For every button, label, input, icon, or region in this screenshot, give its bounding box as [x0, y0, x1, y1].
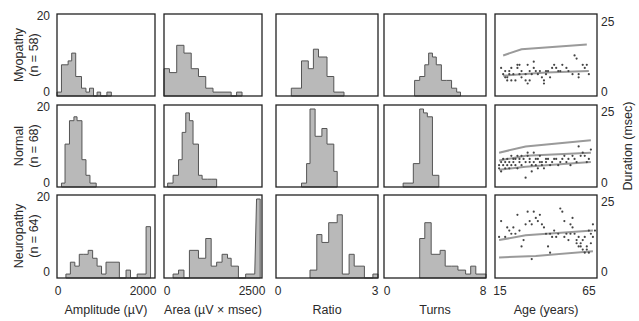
data-point — [584, 155, 586, 157]
row2-right-ytick-bottom: 0 — [601, 176, 608, 190]
panel-normal-turns — [384, 105, 486, 187]
data-point — [578, 236, 580, 238]
data-point — [537, 167, 539, 169]
data-point — [578, 76, 580, 78]
col4-xtick-min: 0 — [384, 284, 391, 298]
data-point — [520, 155, 522, 157]
panel-neuropathy-ratio — [276, 195, 378, 278]
row-label-myopathy: Myopathy — [12, 27, 26, 82]
data-point — [561, 158, 563, 160]
data-point — [539, 161, 541, 163]
data-point — [533, 211, 535, 213]
data-point — [498, 236, 500, 238]
data-point — [502, 158, 504, 160]
data-point — [571, 155, 573, 157]
data-point — [553, 158, 555, 160]
data-point — [504, 236, 506, 238]
data-point — [537, 158, 539, 160]
data-point — [520, 164, 522, 166]
data-point — [571, 73, 573, 75]
row3-ytick-bottom: 0 — [43, 265, 50, 279]
data-point — [543, 82, 545, 84]
data-point — [500, 67, 502, 69]
data-point — [514, 158, 516, 160]
data-point — [506, 76, 508, 78]
data-point — [522, 239, 524, 241]
col3-xtick-min: 0 — [275, 284, 282, 298]
data-point — [547, 70, 549, 72]
data-point — [573, 54, 575, 56]
data-point — [533, 67, 535, 69]
data-point — [535, 70, 537, 72]
histogram-bars — [61, 117, 96, 187]
data-point — [584, 67, 586, 69]
data-point — [594, 230, 596, 232]
data-point — [569, 223, 571, 225]
trend-line — [503, 45, 587, 56]
col1-xlabel: Amplitude (µV) — [65, 303, 148, 317]
data-point — [571, 217, 573, 219]
data-point — [561, 64, 563, 66]
data-point — [535, 164, 537, 166]
data-point — [578, 245, 580, 247]
data-point — [502, 164, 504, 166]
panel-grid — [57, 14, 597, 278]
data-point — [559, 70, 561, 72]
data-point — [498, 164, 500, 166]
data-point — [531, 164, 533, 166]
panel-myopathy-duration-age — [495, 14, 597, 96]
col3-xlabel: Ratio — [312, 303, 341, 317]
data-point — [518, 161, 520, 163]
data-point — [557, 164, 559, 166]
panel-neuropathy-amplitude — [57, 195, 155, 278]
data-point — [590, 242, 592, 244]
data-point — [533, 161, 535, 163]
panel-frame — [495, 105, 597, 187]
data-point — [518, 64, 520, 66]
data-point — [522, 158, 524, 160]
data-point — [527, 155, 529, 157]
data-point — [539, 214, 541, 216]
data-point — [576, 161, 578, 163]
panel-frame — [495, 195, 597, 278]
histogram-bars — [291, 49, 344, 96]
data-point — [567, 70, 569, 72]
data-point — [563, 236, 565, 238]
histogram-bars — [415, 53, 461, 96]
right-y-axis-label: Duration (msec) — [621, 102, 635, 191]
data-point — [545, 70, 547, 72]
data-point — [531, 170, 533, 172]
data-point — [529, 161, 531, 163]
panel-myopathy-ratio — [276, 14, 378, 96]
panel-normal-duration-age — [495, 105, 597, 187]
data-point — [529, 70, 531, 72]
data-point — [588, 73, 590, 75]
data-point — [569, 164, 571, 166]
data-point — [516, 167, 518, 169]
data-point — [580, 242, 582, 244]
data-point — [508, 73, 510, 75]
data-point — [586, 245, 588, 247]
data-point — [567, 158, 569, 160]
row2-right-ytick-top: 25 — [601, 105, 615, 119]
row-label-neuropathy: Neuropathy — [12, 203, 26, 268]
data-point — [578, 145, 580, 147]
histogram-bars — [310, 215, 378, 278]
data-point — [545, 161, 547, 163]
data-point — [508, 167, 510, 169]
data-point — [531, 223, 533, 225]
data-point — [512, 161, 514, 163]
row-label-normal: Normal — [12, 126, 26, 166]
data-point — [588, 158, 590, 160]
data-point — [541, 161, 543, 163]
data-point — [586, 248, 588, 250]
panel-neuropathy-duration-age — [495, 195, 597, 278]
data-point — [500, 161, 502, 163]
data-point — [576, 57, 578, 59]
data-point — [590, 148, 592, 150]
data-point — [588, 252, 590, 254]
data-point — [551, 161, 553, 163]
col3-xtick-max: 3 — [372, 284, 379, 298]
data-point — [516, 214, 518, 216]
emg-figure: 20 0 20 0 20 0 25 0 25 0 25 0 Duration (… — [0, 0, 639, 321]
